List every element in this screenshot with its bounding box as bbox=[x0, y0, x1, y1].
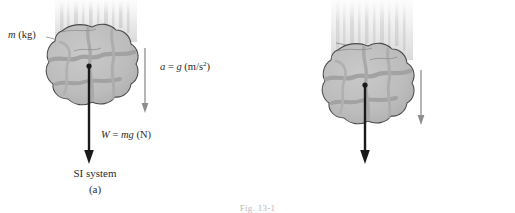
accel-symbol: a bbox=[160, 61, 165, 72]
accel-unit-close: ) bbox=[207, 61, 211, 72]
mass-unit: (kg) bbox=[18, 29, 36, 40]
accel-equals: = bbox=[168, 61, 174, 72]
figure-caption-reference: Fig. 13-1 bbox=[0, 203, 515, 213]
falling-mass-blob bbox=[322, 43, 414, 124]
accel-value: g bbox=[176, 61, 181, 72]
caption-si-letter: (a) bbox=[30, 182, 160, 198]
acceleration-arrow bbox=[142, 48, 149, 113]
accel-unit-open: (m/s bbox=[184, 61, 203, 72]
acceleration-label-si: a = g (m/s2) bbox=[160, 62, 210, 73]
caption-si-text: SI system bbox=[73, 167, 116, 179]
weight-expression: mg bbox=[121, 129, 134, 140]
panel-fps-system: m = W g (slug) a = g (ft /s2) W (lb) FPS… bbox=[258, 0, 515, 213]
mass-label-si: m (kg) bbox=[8, 30, 36, 41]
weight-symbol: W bbox=[101, 129, 110, 140]
weight-unit: (N) bbox=[136, 129, 151, 140]
weight-label-si: W = mg (N) bbox=[101, 130, 151, 141]
mass-symbol: m bbox=[8, 29, 16, 40]
falling-mass-blob bbox=[46, 24, 138, 105]
acceleration-arrow bbox=[418, 70, 425, 125]
caption-si: SI system (a) bbox=[30, 166, 160, 198]
panel-si-system: m (kg) a = g (m/s2) W = mg (N) SI system… bbox=[0, 0, 257, 213]
fps-diagram-art bbox=[258, 0, 515, 213]
weight-equals: = bbox=[112, 129, 118, 140]
falling-mass-units-figure: m (kg) a = g (m/s2) W = mg (N) SI system… bbox=[0, 0, 515, 213]
